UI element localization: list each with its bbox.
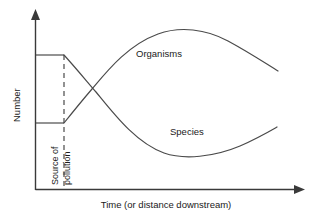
source-of-pollution-label-line1: Source of xyxy=(50,146,60,185)
species-series-label: Species xyxy=(170,126,204,137)
x-axis-arrowhead xyxy=(294,185,305,194)
species-curve xyxy=(64,55,277,157)
x-axis-title: Time (or distance downstream) xyxy=(101,199,232,210)
source-of-pollution-label-line2: pollution xyxy=(62,151,72,185)
y-axis-title: Number xyxy=(11,88,22,122)
y-axis-arrowhead xyxy=(31,9,40,20)
chart-canvas: Number Time (or distance downstream) Org… xyxy=(0,0,316,220)
organisms-series-label: Organisms xyxy=(136,48,182,59)
organisms-curve xyxy=(64,30,278,123)
pollution-response-chart: Number Time (or distance downstream) Org… xyxy=(0,0,316,220)
